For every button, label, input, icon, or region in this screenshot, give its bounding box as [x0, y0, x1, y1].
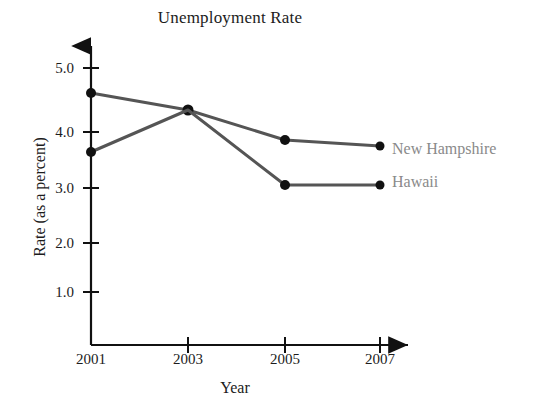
line-new-hampshire [91, 93, 380, 146]
axis-lines [91, 46, 408, 345]
series-hawaii [86, 110, 385, 190]
point-hawaii-2005 [280, 180, 290, 190]
point-hawaii-2007 [376, 181, 385, 190]
line-hawaii [91, 110, 380, 185]
point-new-hampshire-2007 [376, 142, 385, 151]
plot-area [0, 0, 541, 410]
series-new-hampshire [86, 88, 385, 151]
point-new-hampshire-2001 [86, 88, 96, 98]
point-hawaii-2001 [86, 147, 96, 157]
unemployment-rate-chart: Unemployment Rate Rate (as a percent) Ye… [0, 0, 541, 410]
point-new-hampshire-2005 [280, 135, 290, 145]
